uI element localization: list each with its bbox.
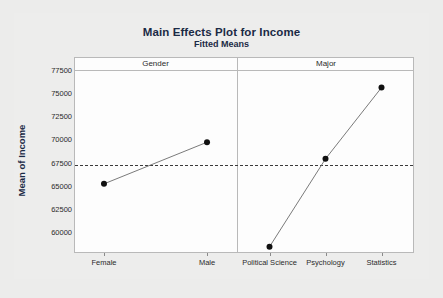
y-axis-tick-label: 65000 <box>30 181 72 190</box>
x-axis-tick-mark <box>382 253 383 256</box>
y-axis-tick-label: 75000 <box>30 89 72 98</box>
y-axis-title-text: Mean of Income <box>17 124 28 196</box>
y-axis-tick-label: 70000 <box>30 135 72 144</box>
y-axis-tick-label: 77500 <box>30 66 72 75</box>
x-axis-tick-mark <box>104 253 105 256</box>
panel-header-separator <box>74 70 414 71</box>
plot-frame <box>74 57 414 253</box>
y-axis-tick-label: 67500 <box>30 158 72 167</box>
y-axis-tick-label: 60000 <box>30 228 72 237</box>
panel-title-major: Major <box>238 59 414 68</box>
x-axis-tick-mark <box>270 253 271 256</box>
y-axis-tick-label: 72500 <box>30 112 72 121</box>
y-axis-tick-label: 62500 <box>30 204 72 213</box>
x-axis-tick-label: Political Science <box>242 258 297 267</box>
x-axis-tick-label: Statistics <box>366 258 396 267</box>
panel-title-gender: Gender <box>74 59 237 68</box>
x-axis-tick-mark <box>207 253 208 256</box>
x-axis-tick-label: Psychology <box>306 258 344 267</box>
x-axis-tick-label: Female <box>91 258 116 267</box>
main-effects-plot-figure: Main Effects Plot for Income Fitted Mean… <box>0 0 443 298</box>
y-axis-tick-labels: 6000062500650006750070000725007500077500 <box>28 0 72 298</box>
panel-divider <box>237 57 238 253</box>
x-axis-tick-label: Male <box>199 258 215 267</box>
grand-mean-reference-line <box>75 165 413 166</box>
x-axis-tick-mark <box>326 253 327 256</box>
